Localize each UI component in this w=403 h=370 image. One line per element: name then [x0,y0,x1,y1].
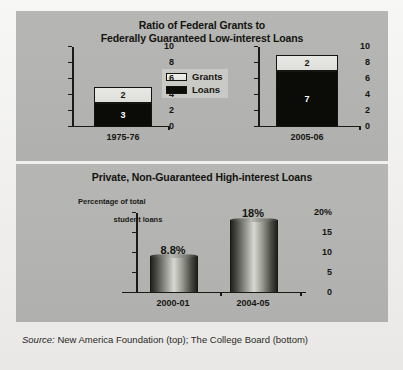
bar-value-2004-05: 18% [242,207,264,219]
x-label-2000-01: 2000-01 [156,298,189,308]
source-label: Source: [22,334,55,345]
y-label-5-private: 5 [304,268,332,277]
y-tick-10-private [132,252,136,254]
y-label-10-2005: 10 [350,42,370,51]
bar-stack-2005-06[interactable]: 2 7 [276,47,338,127]
y-label-0-1975: 0 [154,122,174,131]
y-label-6-2005: 6 [350,74,370,83]
y-label-6-1975: 6 [154,74,174,83]
bottom-chart-title: Private, Non-Guaranteed High-interest Lo… [16,171,388,184]
y-label-4-1975: 4 [154,90,174,99]
y-axis-line-2005 [258,47,260,127]
y-label-20-private: 20% [304,208,332,217]
top-chart-title-line2: Federally Guaranteed Low-interest Loans [16,32,388,45]
axis-caption-line1: Percentage of total [78,197,198,206]
y-tick-10-2005 [254,46,258,48]
y-tick-0-1975 [68,126,72,128]
bar-segment-grants-2005-06[interactable]: 2 [276,55,338,71]
y-label-15-private: 15 [304,228,332,237]
y-label-10-private: 10 [304,248,332,257]
y-tick-6-1975 [68,78,72,80]
bar-value-2000-01: 8.8% [160,244,185,256]
source-text: New America Foundation (top); The Colleg… [55,334,308,345]
y-tick-0-private [132,292,136,294]
bar-segment-loans-value-2005-06: 7 [304,95,309,104]
plot-1975-76: 0 2 4 6 8 10 2 3 1975-76 [44,47,174,147]
bar-2000-01[interactable] [150,256,198,291]
bar-segment-loans-2005-06[interactable]: 7 [276,71,338,127]
y-tick-6-2005 [254,78,258,80]
y-tick-2-1975 [68,110,72,112]
figure-container: Ratio of Federal Grants to Federally Gua… [0,0,403,370]
y-label-8-1975: 8 [154,58,174,67]
y-tick-20-private [132,212,136,214]
x-axis-endcap-private [300,292,302,296]
y-axis-line-private [136,213,138,293]
y-tick-15-private [132,232,136,234]
x-label-2005-06: 2005-06 [290,132,323,142]
bar-segment-grants-1975-76[interactable]: 2 [94,87,152,103]
plot-private-loans: 0 5 10 15 20% 8.8% 2000-01 18% 2004-05 [102,213,332,323]
legend-item-grants: Grants [166,72,223,82]
top-chart-panel: Ratio of Federal Grants to Federally Gua… [16,11,388,161]
y-tick-8-2005 [254,62,258,64]
y-tick-2-2005 [254,110,258,112]
y-axis-line-1975 [72,47,74,127]
x-axis-endcap-2005 [359,126,361,130]
y-label-4-2005: 4 [350,90,370,99]
y-tick-0-2005 [254,126,258,128]
y-label-2-2005: 2 [350,106,370,115]
bar-stack-1975-76[interactable]: 2 3 [94,47,152,127]
legend-item-loans: Loans [166,85,223,95]
y-label-0-private: 0 [304,288,332,297]
bar-segment-loans-value-1975-76: 3 [120,111,125,120]
legend-label-loans: Loans [192,85,220,95]
bar-segment-grants-value-2005-06: 2 [304,59,309,68]
y-tick-5-private [132,272,136,274]
bar-2004-05[interactable] [230,220,278,292]
legend-label-grants: Grants [192,72,223,82]
bar-segment-loans-1975-76[interactable]: 3 [94,103,152,127]
x-tick-mid-private [220,292,222,296]
y-label-2-1975: 2 [154,106,174,115]
y-tick-8-1975 [68,62,72,64]
x-axis-endcap-1975 [168,126,170,130]
y-tick-10-1975 [68,46,72,48]
y-label-8-2005: 8 [350,58,370,67]
y-label-10-1975: 10 [154,42,174,51]
y-tick-4-1975 [68,94,72,96]
y-tick-4-2005 [254,94,258,96]
x-label-1975-76: 1975-76 [106,132,139,142]
top-chart-title-line1: Ratio of Federal Grants to [16,19,388,32]
bottom-chart-panel: Private, Non-Guaranteed High-interest Lo… [16,164,388,322]
plot-2005-06: 0 2 4 6 8 10 2 7 2005-06 [230,47,370,147]
bar-segment-grants-value-1975-76: 2 [120,91,125,100]
x-axis-line-private [122,292,306,294]
x-label-2004-05: 2004-05 [236,298,269,308]
top-chart-title: Ratio of Federal Grants to Federally Gua… [16,19,388,45]
source-line: Source: New America Foundation (top); Th… [22,334,308,345]
